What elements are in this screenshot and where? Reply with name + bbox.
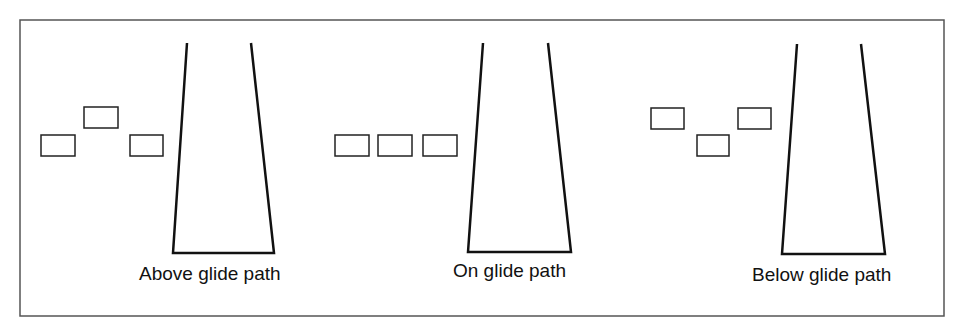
label-below-glide-path: Below glide path [752,264,891,286]
label-above-glide-path: Above glide path [139,263,281,285]
approach-light-box [130,135,163,156]
runway-outline [468,43,571,252]
approach-light-box [41,135,75,156]
runway-outline [173,43,274,253]
panel-on-glide-path [335,43,571,252]
approach-light-box [335,135,369,156]
approach-light-box [697,135,729,156]
label-on-glide-path: On glide path [453,260,566,282]
approach-light-box [84,107,118,128]
runway-outline [782,44,885,254]
approach-light-box [651,108,684,129]
approach-light-box [378,135,412,156]
panel-above-glide-path [41,43,274,253]
approach-light-box [423,135,457,156]
panel-below-glide-path [651,44,885,254]
approach-light-box [738,108,771,129]
